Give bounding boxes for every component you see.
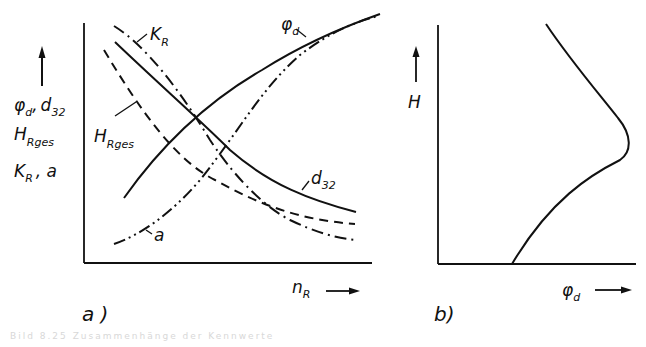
label-d32: d32 — [311, 168, 336, 192]
y-label-line3: KR, a — [14, 161, 57, 185]
curve-k-r — [114, 26, 356, 240]
x-axis-arrow-a — [326, 288, 360, 295]
figure-caption: Bild 8.25 Zusammenhänge der Kennwerte — [10, 331, 630, 343]
x-label-a: nR — [292, 277, 310, 301]
diagram-canvas: KR HRges φd d32 a φd,d32 HRges KR, a nR … — [0, 0, 646, 347]
panel-b: H φd b) — [408, 24, 636, 326]
leader-k-r — [137, 34, 147, 42]
panel-a: KR HRges φd d32 a φd,d32 HRges KR, a nR … — [14, 14, 380, 326]
panel-label-b: b) — [434, 302, 455, 326]
curve-h-rges — [104, 50, 355, 224]
label-phi-d: φd — [281, 14, 300, 38]
label-a: a — [154, 225, 164, 245]
leader-a — [146, 230, 152, 234]
curve-phi-d-profile — [512, 24, 629, 264]
y-axis-arrow — [39, 46, 46, 86]
y-label-line2: HRges — [14, 124, 54, 149]
label-h-rges: HRges — [94, 126, 134, 151]
panel-label-a: a ) — [82, 302, 108, 326]
curve-a — [114, 16, 378, 244]
y-label-line1: φd,d32 — [14, 95, 65, 119]
x-label-b: φd — [562, 280, 581, 304]
y-label-b: H — [408, 92, 421, 112]
y-axis-arrow-b — [413, 46, 420, 82]
leader-d32 — [302, 181, 309, 190]
label-k-r: KR — [150, 24, 169, 49]
x-axis-arrow-b — [595, 287, 632, 294]
leader-h-rges — [115, 102, 136, 116]
